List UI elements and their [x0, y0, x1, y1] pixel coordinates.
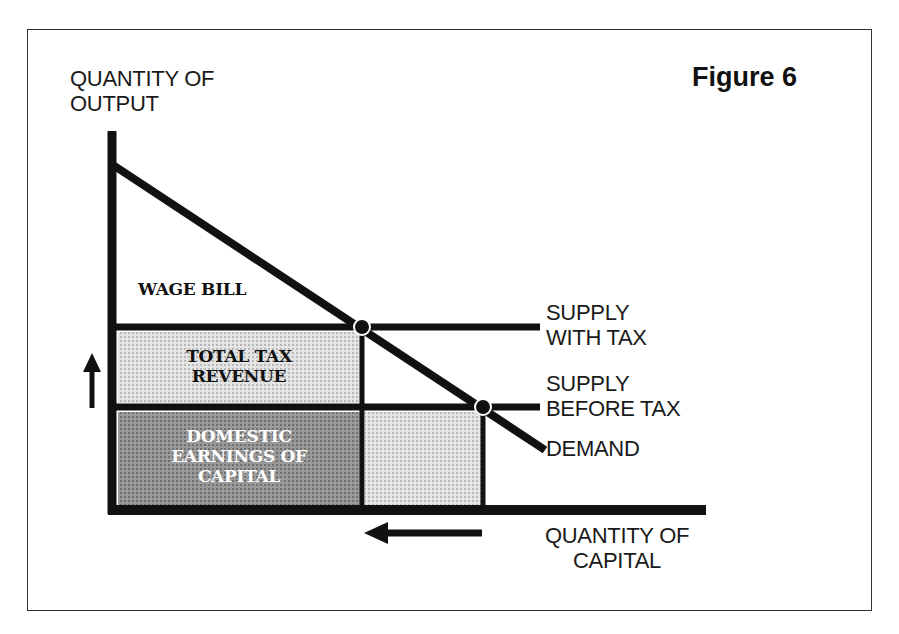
tax-equilibrium-dot	[354, 319, 370, 335]
demand-label: DEMAND	[546, 436, 640, 461]
pretax-equilibrium-dot	[475, 399, 491, 415]
y-axis-label: QUANTITY OF OUTPUT	[70, 66, 214, 116]
supply-before-tax-label: SUPPLY BEFORE TAX	[546, 371, 680, 421]
lost-capital-region	[365, 412, 481, 506]
figure-title: Figure 6	[692, 62, 797, 93]
domestic-earnings-label: DOMESTIC EARNINGS OF CAPITAL	[118, 426, 360, 486]
up-arrow-icon	[83, 353, 101, 408]
left-arrow-icon	[364, 522, 482, 544]
total-tax-revenue-label: TOTAL TAX REVENUE	[118, 346, 360, 386]
supply-with-tax-label: SUPPLY WITH TAX	[546, 300, 647, 350]
x-axis-label: QUANTITY OF CAPITAL	[524, 523, 710, 573]
wage-bill-label: WAGE BILL	[138, 279, 246, 299]
